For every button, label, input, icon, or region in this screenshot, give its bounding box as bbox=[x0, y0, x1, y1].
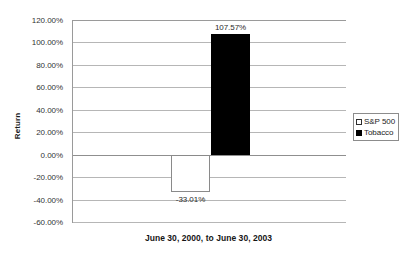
legend-item-tobacco[interactable]: Tobacco bbox=[356, 127, 395, 138]
gridline bbox=[73, 110, 346, 111]
bar-tobacco[interactable] bbox=[211, 34, 250, 155]
chart-container: Return 120.00%100.00%80.00%60.00%40.00%2… bbox=[0, 0, 415, 258]
gridline bbox=[73, 20, 346, 21]
gridline bbox=[73, 132, 346, 133]
hollow-square-icon bbox=[356, 119, 362, 125]
y-axis-tick-label: -60.00% bbox=[34, 218, 63, 227]
y-axis-tick-label: 120.00% bbox=[32, 16, 63, 25]
legend-label-sp500: S&P 500 bbox=[364, 117, 395, 126]
data-label-tobacco: 107.57% bbox=[197, 23, 264, 32]
y-axis-tick-label: 80.00% bbox=[36, 60, 63, 69]
chart-legend: S&P 500 Tobacco bbox=[353, 113, 399, 141]
filled-square-icon bbox=[356, 130, 362, 136]
y-axis-tick-label: 0.00% bbox=[41, 150, 63, 159]
y-axis-tick-label: 60.00% bbox=[36, 83, 63, 92]
y-axis-tick-label: 100.00% bbox=[32, 38, 63, 47]
y-axis-tick-label: -40.00% bbox=[34, 195, 63, 204]
gridline bbox=[73, 222, 346, 223]
y-axis-tick-label: 20.00% bbox=[36, 128, 63, 137]
gridline bbox=[73, 87, 346, 88]
legend-item-sp500[interactable]: S&P 500 bbox=[356, 116, 395, 127]
x-axis-title: June 30, 2000, to June 30, 2003 bbox=[72, 233, 345, 243]
gridline bbox=[73, 42, 346, 43]
plot-area: -33.01%107.57% bbox=[72, 20, 346, 223]
gridline bbox=[73, 65, 346, 66]
y-axis-tick-labels: 120.00%100.00%80.00%60.00%40.00%20.00%0.… bbox=[0, 20, 68, 222]
legend-label-tobacco: Tobacco bbox=[364, 128, 393, 137]
y-axis-tick-label: -20.00% bbox=[34, 173, 63, 182]
bar-sp500[interactable] bbox=[171, 155, 210, 192]
y-axis-tick-label: 40.00% bbox=[36, 105, 63, 114]
data-label-sp500: -33.01% bbox=[157, 195, 224, 204]
